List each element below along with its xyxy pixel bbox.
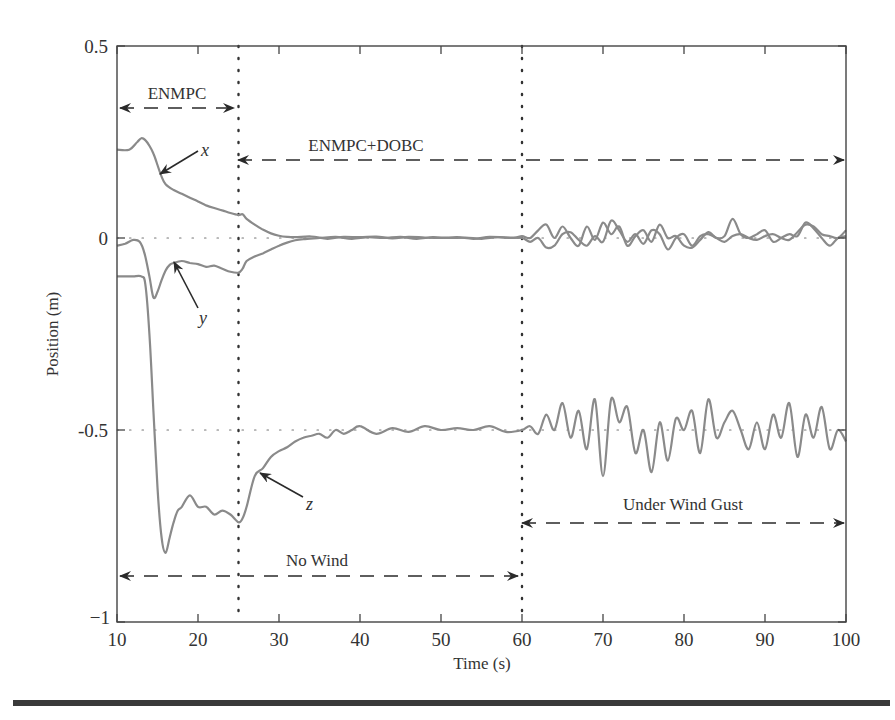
position-time-chart: 102030405060708090100 −1-0.500.5 Time (s… bbox=[0, 0, 895, 720]
x-tick-label: 20 bbox=[189, 629, 208, 650]
pointer-arrow-z bbox=[260, 473, 303, 497]
pointer-arrow-y bbox=[174, 262, 198, 308]
span-label-enmpc-dobc: ENMPC+DOBC bbox=[308, 136, 423, 155]
y-tick-label: −1 bbox=[90, 607, 110, 628]
x-tick-label: 40 bbox=[351, 629, 370, 650]
curve-x-label: x bbox=[200, 140, 209, 160]
x-tick-label: 50 bbox=[432, 629, 451, 650]
curve-label-z: z bbox=[260, 473, 313, 514]
span-annotation-enmpc-dobc: ENMPC+DOBC bbox=[238, 136, 844, 160]
axis-ticks bbox=[117, 46, 846, 622]
curve-y bbox=[117, 219, 846, 298]
reference-lines bbox=[117, 46, 846, 622]
span-annotation-wind-gust: Under Wind Gust bbox=[522, 495, 844, 523]
span-annotation-enmpc: ENMPC bbox=[120, 84, 234, 108]
span-label-no-wind: No Wind bbox=[286, 551, 348, 570]
x-tick-label: 60 bbox=[513, 629, 532, 650]
y-tick-label: 0.5 bbox=[84, 36, 108, 57]
span-label-wind-gust: Under Wind Gust bbox=[623, 495, 743, 514]
span-annotation-no-wind: No Wind bbox=[120, 551, 518, 576]
curve-z-label: z bbox=[305, 494, 313, 514]
y-axis-title: Position (m) bbox=[43, 292, 62, 377]
x-tick-label: 70 bbox=[594, 629, 613, 650]
curve-label-y: y bbox=[174, 262, 207, 328]
plot-frame bbox=[117, 46, 846, 622]
y-tick-label: 0 bbox=[99, 228, 109, 249]
pointer-arrow-x bbox=[160, 151, 198, 174]
curve-label-x: x bbox=[160, 140, 209, 174]
y-tick-labels: −1-0.500.5 bbox=[78, 36, 110, 628]
y-tick-label: -0.5 bbox=[78, 420, 108, 441]
x-tick-label: 10 bbox=[108, 629, 127, 650]
x-tick-labels: 102030405060708090100 bbox=[108, 629, 861, 650]
curves bbox=[117, 138, 846, 553]
x-tick-label: 30 bbox=[270, 629, 289, 650]
x-tick-label: 90 bbox=[756, 629, 775, 650]
x-tick-label: 100 bbox=[832, 629, 861, 650]
span-label-enmpc: ENMPC bbox=[148, 84, 207, 103]
x-axis-title: Time (s) bbox=[453, 654, 510, 673]
curve-y-label: y bbox=[197, 308, 207, 328]
curve-x bbox=[117, 138, 846, 249]
x-tick-label: 80 bbox=[675, 629, 694, 650]
bottom-rule bbox=[13, 700, 890, 706]
